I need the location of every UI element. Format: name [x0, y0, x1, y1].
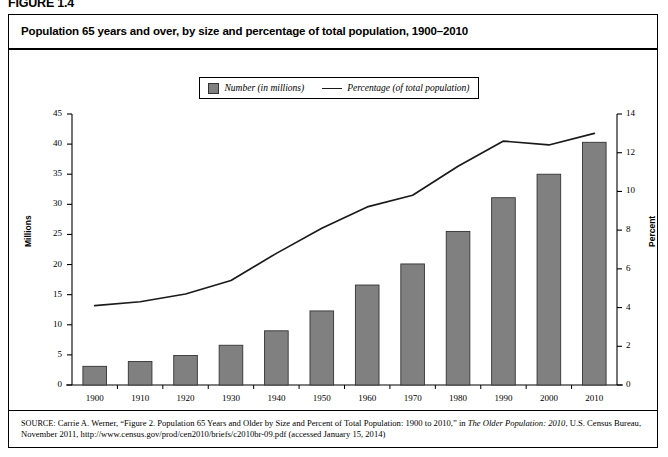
bar: [355, 285, 379, 385]
y-axis-left-tick: 20: [42, 259, 62, 269]
bar: [401, 264, 425, 385]
bar: [446, 231, 470, 385]
y-axis-left-tick: 0: [42, 379, 62, 389]
y-axis-right-tick: 12: [626, 147, 646, 157]
source-divider: [9, 410, 657, 411]
y-axis-left-tick: 25: [42, 228, 62, 238]
bar: [174, 355, 198, 385]
y-axis-right-tick: 2: [626, 340, 646, 350]
x-axis-tick: 1980: [438, 393, 478, 403]
y-axis-left-tick: 35: [42, 168, 62, 178]
x-axis-tick: 1990: [483, 393, 523, 403]
y-axis-left-tick: 15: [42, 289, 62, 299]
x-axis-tick: 1960: [347, 393, 387, 403]
x-axis-tick: 1900: [75, 393, 115, 403]
source-prefix: SOURCE:: [21, 419, 56, 428]
y-axis-left-tick: 40: [42, 138, 62, 148]
plot-area: 0510152025303540450246810121419001910192…: [9, 15, 659, 415]
x-axis-tick: 1920: [166, 393, 206, 403]
source-note: SOURCE: Carrie A. Werner, “Figure 2. Pop…: [21, 418, 647, 441]
figure-label: FIGURE 1.4: [8, 0, 74, 10]
y-axis-right-tick: 8: [626, 224, 646, 234]
x-axis-tick: 1930: [211, 393, 251, 403]
x-axis-tick: 2010: [574, 393, 614, 403]
y-axis-right-tick: 6: [626, 263, 646, 273]
figure-container: Population 65 years and over, by size an…: [8, 14, 658, 448]
x-axis-tick: 2000: [529, 393, 569, 403]
y-axis-left-tick: 5: [42, 349, 62, 359]
x-axis-tick: 1910: [120, 393, 160, 403]
y-axis-right-tick: 4: [626, 302, 646, 312]
bar: [219, 345, 243, 385]
y-axis-left-tick: 45: [42, 108, 62, 118]
bar: [537, 174, 561, 385]
percentage-line: [95, 133, 595, 305]
y-axis-right-tick: 14: [626, 108, 646, 118]
x-axis-tick: 1970: [393, 393, 433, 403]
source-text-1: Carrie A. Werner, “Figure 2. Population …: [56, 418, 468, 428]
bar: [582, 142, 606, 385]
bar: [128, 362, 152, 385]
x-axis-tick: 1950: [302, 393, 342, 403]
bar: [265, 331, 289, 385]
y-axis-left-tick: 10: [42, 319, 62, 329]
y-axis-left-tick: 30: [42, 198, 62, 208]
x-axis-tick: 1940: [256, 393, 296, 403]
y-axis-right-tick: 0: [626, 379, 646, 389]
bar: [83, 366, 107, 385]
bar: [310, 311, 334, 385]
bar: [492, 198, 516, 385]
chart-svg: [9, 15, 659, 415]
source-italic-title: The Older Population: 2010: [468, 418, 566, 428]
y-axis-right-tick: 10: [626, 185, 646, 195]
